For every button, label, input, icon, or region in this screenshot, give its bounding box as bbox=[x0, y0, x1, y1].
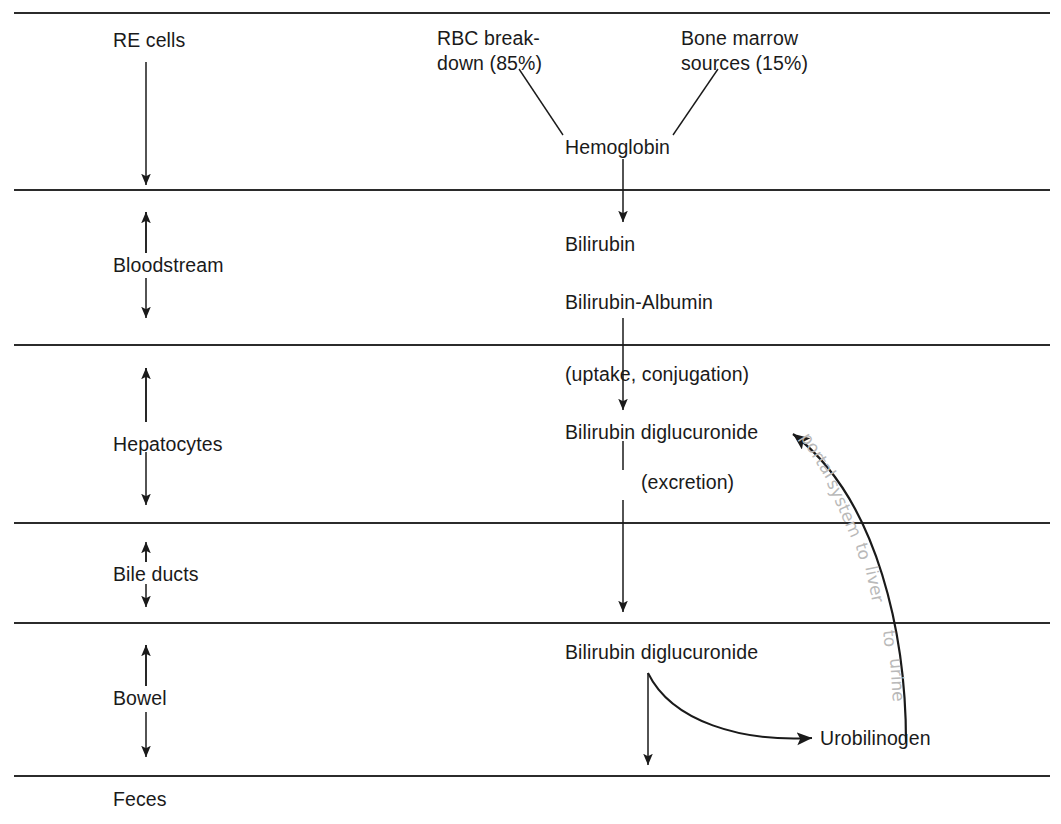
node-bilirubin: Bilirubin bbox=[565, 232, 635, 257]
node-uptake-conjugation: (uptake, conjugation) bbox=[565, 362, 749, 387]
compartment-label-bloodstream: Bloodstream bbox=[113, 253, 224, 278]
annotation-word-4: to bbox=[879, 629, 901, 648]
source-label-rbc-line2: down (85%) bbox=[437, 51, 542, 76]
compartment-label-re-cells: RE cells bbox=[113, 28, 185, 53]
compartment-label-bile-ducts: Bile ducts bbox=[113, 562, 199, 587]
line-marrow-to-hemoglobin bbox=[673, 69, 718, 135]
source-label-rbc-line1: RBC break- bbox=[437, 26, 540, 51]
source-label-marrow-line2: sources (15%) bbox=[681, 51, 808, 76]
node-bilirubin-albumin: Bilirubin-Albumin bbox=[565, 290, 713, 315]
node-bilirubin-diglucuronide-liver: Bilirubin diglucuronide bbox=[565, 420, 758, 445]
node-bilirubin-diglucuronide-bowel: Bilirubin diglucuronide bbox=[565, 640, 758, 665]
annotation-word-5: urine bbox=[886, 657, 909, 702]
compartment-label-hepatocytes: Hepatocytes bbox=[113, 432, 223, 457]
compartment-label-bowel: Bowel bbox=[113, 686, 167, 711]
node-excretion: (excretion) bbox=[641, 470, 734, 495]
node-hemoglobin: Hemoglobin bbox=[565, 135, 670, 160]
line-rbc-to-hemoglobin bbox=[519, 69, 563, 135]
source-label-marrow-line1: Bone marrow bbox=[681, 26, 798, 51]
curve-to-urobilinogen bbox=[648, 673, 812, 738]
bilirubin-metabolism-figure: RE cells Bloodstream Hepatocytes Bile du… bbox=[0, 0, 1061, 824]
node-urobilinogen: Urobilinogen bbox=[820, 726, 931, 751]
compartment-label-feces: Feces bbox=[113, 787, 167, 812]
